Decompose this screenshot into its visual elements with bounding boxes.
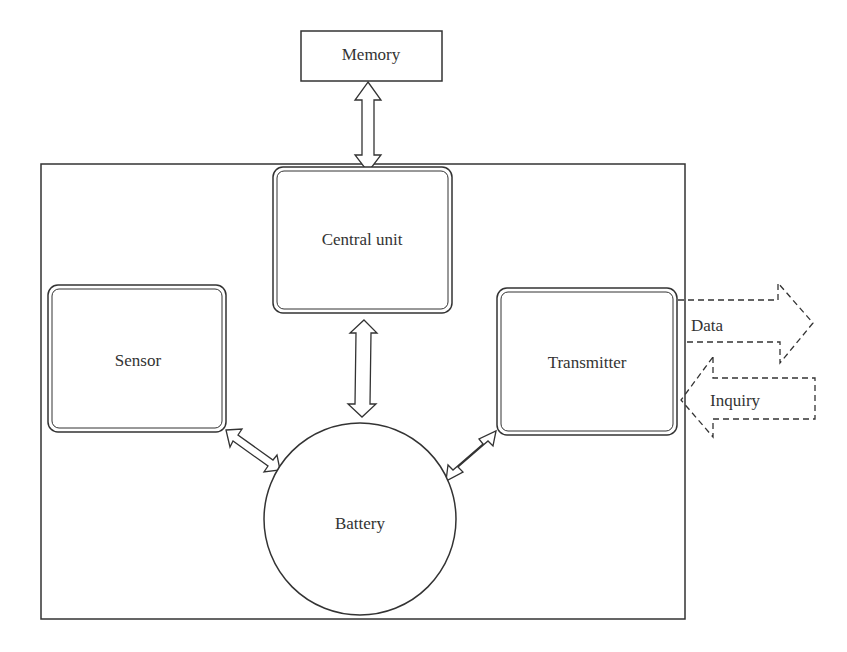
battery-node: Battery — [264, 423, 456, 615]
sensor-node-diagram: Memory Central unit Sensor Transmitter B… — [0, 0, 847, 652]
transmitter-node: Transmitter — [497, 288, 677, 435]
central-battery-arrow — [348, 320, 377, 417]
memory-node: Memory — [301, 31, 442, 81]
sensor-label: Sensor — [115, 351, 162, 370]
central-unit-node: Central unit — [273, 167, 452, 313]
inquiry-label: Inquiry — [710, 391, 761, 410]
battery-label: Battery — [335, 514, 386, 533]
data-label: Data — [691, 316, 724, 335]
transmitter-battery-arrow — [446, 431, 496, 481]
central-unit-label: Central unit — [322, 230, 403, 249]
sensor-node: Sensor — [48, 285, 226, 432]
sensor-battery-arrow — [226, 429, 280, 472]
memory-central-arrow — [355, 82, 381, 172]
inquiry-in-arrow: Inquiry — [681, 357, 815, 437]
data-out-arrow: Data — [678, 283, 813, 363]
transmitter-label: Transmitter — [548, 353, 627, 372]
memory-label: Memory — [342, 45, 401, 64]
